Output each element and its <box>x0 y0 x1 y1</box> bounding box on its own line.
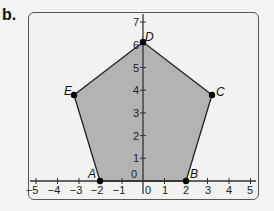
y-tick-label: 1 <box>133 152 139 164</box>
vertex-b-label: B <box>190 167 198 181</box>
x-tick-label: −3 <box>70 184 83 196</box>
coordinate-plane: −5 −4 −3 −2 −1 0 1 2 3 4 5 0 1 2 3 4 5 6… <box>0 0 274 211</box>
x-tick-label: 2 <box>183 184 189 196</box>
vertex-d-label: D <box>145 30 154 44</box>
vertex-a-point <box>97 178 103 184</box>
y-tick-label: 5 <box>133 62 139 74</box>
y-tick-label: 7 <box>133 16 139 28</box>
x-tick-label: 4 <box>226 184 232 196</box>
vertex-b-point <box>183 178 189 184</box>
x-tick-label: −1 <box>113 184 126 196</box>
vertex-c-point <box>209 92 215 98</box>
x-tick-label: 5 <box>247 184 253 196</box>
x-tick-label: −4 <box>48 184 61 196</box>
x-tick-label: 0 <box>145 184 151 196</box>
y-tick-label: 4 <box>133 84 139 96</box>
x-tick-label: −5 <box>26 184 39 196</box>
y-tick-label: 0 <box>131 168 137 180</box>
y-tick-label: 3 <box>133 107 139 119</box>
x-tick-label: 1 <box>162 184 168 196</box>
y-tick-label: 6 <box>133 39 139 51</box>
vertex-e-label: E <box>64 84 73 98</box>
vertex-a-label: A <box>87 167 96 181</box>
x-tick-label: −2 <box>91 184 104 196</box>
x-tick-label: 3 <box>205 184 211 196</box>
x-tick-labels: −5 −4 −3 −2 −1 0 1 2 3 4 5 <box>26 184 253 196</box>
vertex-c-label: C <box>216 85 225 99</box>
y-tick-label: 2 <box>133 130 139 142</box>
